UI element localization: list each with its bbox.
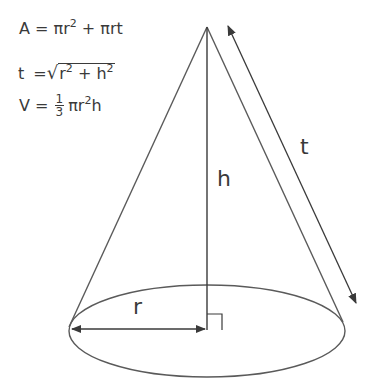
exponent: 2 [107,62,114,75]
area-lhs: A [19,19,30,38]
equals-sign: = [30,96,54,115]
height-label: h [217,166,231,191]
plus-sign: + [77,19,101,38]
fraction-one-third: 13 [55,93,65,118]
volume-term: πr [68,96,84,115]
slant-formula: t =√r2 + h2 [18,62,115,83]
right-angle-marker [207,314,222,330]
exponent: 2 [70,17,77,30]
area-formula: A = πr2 + πrt [19,19,123,38]
volume-term-h: h [91,96,101,115]
radius-label: r [133,294,142,319]
radical-icon: √ [47,62,58,83]
slant-arrow [228,26,356,303]
equals-sign: = [30,19,54,38]
exponent: 2 [66,62,73,75]
cone-diagram [0,0,386,388]
area-term1: πr [54,19,70,38]
equals-sign: = [28,64,47,83]
slant-label: t [300,134,309,159]
volume-lhs: V [19,96,30,115]
plus-sign: + [73,64,97,83]
area-term2: πrt [100,19,122,38]
volume-formula: V = 13πr2h [19,94,102,119]
radicand-r: r [59,64,66,83]
radicand-h: h [96,64,106,83]
fraction-denominator: 3 [55,106,65,118]
radicand: r2 + h2 [58,63,114,83]
slant-lhs: t [18,64,24,83]
square-root: √r2 + h2 [47,62,115,83]
